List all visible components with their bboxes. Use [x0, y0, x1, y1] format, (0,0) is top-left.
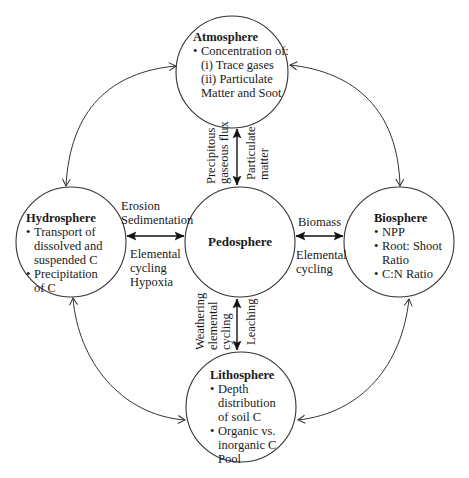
label-line: Leaching [245, 298, 258, 345]
atmosphere-item: Concentration of: [193, 44, 291, 58]
label-line: Sedimentation [121, 213, 193, 227]
pedo-litho-left-label: Weathering elemental cycling [194, 293, 233, 350]
hydrosphere-node: Hydrosphere Transport of dissolved and s… [26, 211, 116, 295]
hydrosphere-lithosphere-arrow [73, 298, 185, 420]
hydrosphere-item: Transport of dissolved and suspended C [26, 225, 116, 267]
label-line: Elemental [130, 247, 181, 261]
lithosphere-item: Organic vs. inorganic C Pool [210, 424, 280, 466]
label-line: Elemental [296, 248, 347, 262]
lithosphere-title: Lithosphere [210, 368, 285, 382]
lithosphere-item: Depth distribution of soil C [210, 382, 285, 424]
atmosphere-hydrosphere-arrow [66, 66, 176, 186]
biosphere-item: NPP [374, 225, 449, 239]
pedosphere-title: Pedosphere [208, 234, 272, 250]
label-line: matter [258, 127, 271, 180]
hydrosphere-item: Precipitation of C [26, 267, 106, 295]
label-line: cycling [296, 262, 347, 276]
biosphere-node: Biosphere NPP Root: Shoot Ratio C:N Rati… [374, 211, 449, 281]
atmosphere-node: Atmosphere Concentration of: (i) Trace g… [193, 30, 303, 100]
label-line: cycling [220, 293, 233, 350]
hydrosphere-title: Hydrosphere [26, 211, 116, 225]
label-line: cycling [130, 261, 181, 275]
atmosphere-subitem: (ii) Particulate Matter and Soot [193, 72, 291, 100]
atmo-pedo-right-label: Particulate matter [245, 127, 271, 180]
biosphere-title: Biosphere [374, 211, 449, 225]
label-line: Erosion [121, 199, 193, 213]
biosphere-lithosphere-arrow [298, 299, 409, 420]
atmosphere-title: Atmosphere [193, 30, 303, 44]
label-line: Biomass [298, 215, 341, 229]
lithosphere-node: Lithosphere Depth distribution of soil C… [210, 368, 285, 466]
label-line: gaseous flux [218, 121, 231, 184]
atmosphere-biosphere-arrow [290, 65, 400, 186]
pedo-bio-below-label: Elemental cycling [296, 248, 347, 276]
biosphere-item: C:N Ratio [374, 267, 449, 281]
biosphere-item: Root: Shoot Ratio [374, 239, 449, 267]
atmosphere-subitem: (i) Trace gases [193, 58, 303, 72]
hydro-pedo-below-label: Elemental cycling Hypoxia [130, 247, 181, 289]
atmo-pedo-left-label: Precipitous gaseous flux [205, 121, 231, 184]
pedo-litho-right-label: Leaching [245, 298, 258, 345]
pedo-bio-above-label: Biomass [298, 215, 341, 229]
hydro-pedo-above-label: Erosion Sedimentation [121, 199, 193, 227]
label-line: Hypoxia [130, 275, 181, 289]
